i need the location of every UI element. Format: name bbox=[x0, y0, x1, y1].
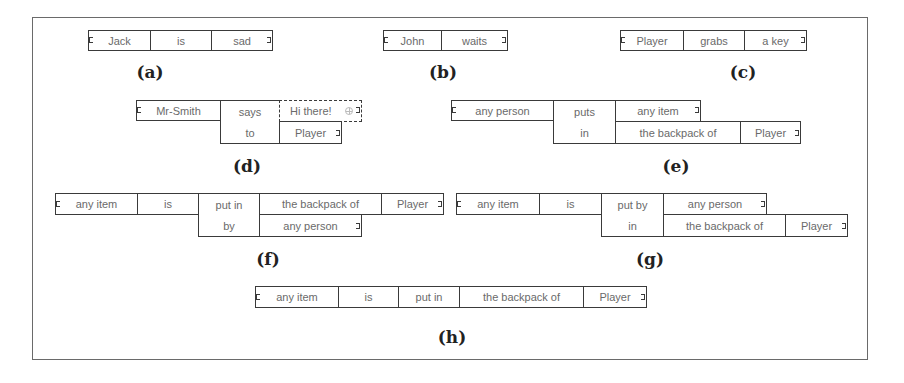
panel-label: (h) bbox=[438, 327, 466, 347]
right-connector-icon[interactable] bbox=[336, 130, 340, 136]
right-connector-icon[interactable] bbox=[356, 107, 360, 113]
panel-label: (g) bbox=[636, 249, 664, 269]
cell-text: the backpack of bbox=[483, 291, 560, 303]
cell-text-bottom: in bbox=[580, 126, 589, 140]
cell-text-top: put in bbox=[216, 198, 243, 212]
block-verb[interactable]: puts in bbox=[553, 100, 616, 144]
block-subject[interactable]: Player bbox=[620, 30, 684, 51]
right-connector-icon[interactable] bbox=[438, 201, 442, 207]
block-preposition[interactable]: put in by bbox=[198, 193, 260, 237]
cell-text-top: put by bbox=[618, 198, 648, 212]
cell-text: a key bbox=[762, 35, 788, 47]
block-owner[interactable]: Player bbox=[381, 193, 444, 215]
right-connector-icon[interactable] bbox=[267, 37, 271, 43]
cell-text: is bbox=[365, 291, 373, 303]
block-object[interactable]: a key bbox=[744, 30, 807, 51]
panel-label: (c) bbox=[730, 62, 756, 82]
cell-text: is bbox=[177, 35, 185, 47]
cell-text-top: puts bbox=[574, 105, 595, 119]
left-connector-icon[interactable] bbox=[621, 37, 625, 43]
cell-text: any person bbox=[283, 220, 337, 232]
right-connector-icon[interactable] bbox=[502, 37, 506, 43]
block-subject[interactable]: Jack bbox=[88, 30, 151, 51]
cell-text: the backpack of bbox=[686, 220, 763, 232]
cell-text: any person bbox=[475, 105, 529, 117]
block-subject[interactable]: any item bbox=[456, 193, 540, 215]
cell-text: any person bbox=[688, 198, 742, 210]
cell-text: put in bbox=[416, 291, 443, 303]
block-verb[interactable]: waits bbox=[441, 30, 508, 51]
block-owner[interactable]: Player bbox=[583, 286, 647, 308]
cell-text: any item bbox=[276, 291, 318, 303]
block-verb[interactable]: is bbox=[539, 193, 602, 215]
left-connector-icon[interactable] bbox=[452, 107, 456, 113]
cell-text: Hi there! bbox=[290, 105, 332, 117]
block-subject[interactable]: Mr-Smith bbox=[136, 100, 221, 121]
cell-text: is bbox=[567, 198, 575, 210]
cell-text: Player bbox=[295, 127, 326, 139]
cell-text-top: says bbox=[239, 105, 262, 119]
block-object[interactable]: any item bbox=[615, 100, 701, 122]
panel-label: (d) bbox=[233, 156, 261, 176]
right-connector-icon[interactable] bbox=[842, 223, 846, 229]
left-connector-icon[interactable] bbox=[256, 294, 260, 300]
block-object[interactable]: Player bbox=[279, 121, 342, 144]
cell-text: waits bbox=[462, 35, 487, 47]
block-verb[interactable]: grabs bbox=[683, 30, 745, 51]
block-verb[interactable]: is bbox=[150, 30, 212, 51]
left-connector-icon[interactable] bbox=[384, 37, 388, 43]
block-subject[interactable]: any item bbox=[255, 286, 339, 308]
panel-label: (b) bbox=[429, 62, 457, 82]
right-connector-icon[interactable] bbox=[801, 37, 805, 43]
cell-text: Player bbox=[755, 127, 786, 139]
add-icon[interactable] bbox=[345, 107, 353, 115]
panel-label: (f) bbox=[256, 249, 279, 269]
block-object[interactable]: the backpack of bbox=[663, 214, 786, 237]
cell-text-bottom: by bbox=[223, 219, 235, 233]
panel-label: (a) bbox=[136, 62, 163, 82]
cell-text: any item bbox=[76, 198, 118, 210]
right-connector-icon[interactable] bbox=[641, 294, 645, 300]
panel-label: (e) bbox=[663, 156, 690, 176]
right-connector-icon[interactable] bbox=[795, 130, 799, 136]
cell-text: Player bbox=[397, 198, 428, 210]
block-verb[interactable]: is bbox=[338, 286, 399, 308]
block-agent[interactable]: any person bbox=[259, 214, 362, 237]
cell-text: any item bbox=[477, 198, 519, 210]
right-connector-icon[interactable] bbox=[695, 107, 699, 113]
block-subject[interactable]: any item bbox=[55, 193, 138, 215]
block-object[interactable]: the backpack of bbox=[459, 286, 584, 308]
left-connector-icon[interactable] bbox=[137, 107, 141, 113]
block-verb[interactable]: is bbox=[137, 193, 199, 215]
block-preposition[interactable]: put in bbox=[398, 286, 460, 308]
block-agent[interactable]: any person bbox=[663, 193, 767, 215]
left-connector-icon[interactable] bbox=[56, 201, 60, 207]
cell-text: is bbox=[164, 198, 172, 210]
left-connector-icon[interactable] bbox=[89, 37, 93, 43]
cell-text: grabs bbox=[700, 35, 728, 47]
cell-text-bottom: to bbox=[245, 126, 254, 140]
right-connector-icon[interactable] bbox=[761, 201, 765, 207]
cell-text: the backpack of bbox=[639, 127, 716, 139]
cell-text: John bbox=[401, 35, 425, 47]
block-subject[interactable]: John bbox=[383, 30, 442, 51]
cell-text: Player bbox=[636, 35, 667, 47]
cell-text: any item bbox=[637, 105, 679, 117]
block-owner[interactable]: Player bbox=[785, 214, 848, 237]
left-connector-icon[interactable] bbox=[457, 201, 461, 207]
cell-text: Player bbox=[801, 220, 832, 232]
block-object[interactable]: the backpack of bbox=[615, 121, 741, 144]
cell-text-bottom: in bbox=[628, 219, 637, 233]
cell-text: the backpack of bbox=[282, 198, 359, 210]
block-preposition[interactable]: put by in bbox=[601, 193, 664, 237]
block-subject[interactable]: any person bbox=[451, 100, 554, 121]
right-connector-icon[interactable] bbox=[356, 223, 360, 229]
block-owner[interactable]: Player bbox=[740, 121, 801, 144]
cell-text: sad bbox=[233, 35, 251, 47]
block-verb[interactable]: says to bbox=[220, 100, 280, 144]
cell-text: Player bbox=[599, 291, 630, 303]
block-object[interactable]: sad bbox=[211, 30, 273, 51]
block-object[interactable]: the backpack of bbox=[259, 193, 382, 215]
cell-text: Mr-Smith bbox=[156, 105, 201, 117]
cell-text: Jack bbox=[108, 35, 131, 47]
